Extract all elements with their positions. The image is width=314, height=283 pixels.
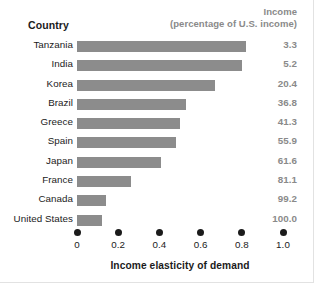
income-header-line1: Income [170, 6, 297, 18]
chart-row: Tanzania3.3 [0, 38, 314, 57]
country-label: Canada [0, 193, 73, 204]
income-value: 3.3 [245, 39, 297, 50]
x-axis-tick: 0.4 [139, 229, 179, 250]
tick-label: 0.2 [98, 239, 138, 250]
chart-row: Canada99.2 [0, 192, 314, 211]
x-axis-tick: 0.2 [98, 229, 138, 250]
elasticity-bar [77, 137, 176, 148]
tick-dot-icon [280, 229, 287, 236]
income-value: 5.2 [245, 58, 297, 69]
elasticity-bar [77, 41, 246, 52]
tick-label: 0.8 [222, 239, 262, 250]
income-elasticity-chart: Country Income (percentage of U.S. incom… [0, 0, 314, 283]
elasticity-bar [77, 176, 131, 187]
income-value: 81.1 [245, 174, 297, 185]
income-header-line2: (percentage of U.S. income) [170, 18, 297, 30]
elasticity-bar [77, 80, 215, 91]
elasticity-bar [77, 99, 186, 110]
tick-label: 1.0 [263, 239, 303, 250]
country-label: France [0, 174, 73, 185]
tick-label: 0 [57, 239, 97, 250]
chart-row: Brazil36.8 [0, 96, 314, 115]
elasticity-bar [77, 118, 180, 129]
chart-row: Japan61.6 [0, 154, 314, 173]
elasticity-bar [77, 60, 242, 71]
income-column-header: Income (percentage of U.S. income) [170, 6, 297, 30]
income-value: 61.6 [245, 155, 297, 166]
income-value: 99.2 [245, 193, 297, 204]
elasticity-bar [77, 157, 161, 168]
country-label: India [0, 58, 73, 69]
tick-label: 0.6 [181, 239, 221, 250]
income-value: 55.9 [245, 135, 297, 146]
country-label: Spain [0, 135, 73, 146]
income-value: 36.8 [245, 97, 297, 108]
chart-header: Country Income (percentage of U.S. incom… [0, 0, 314, 36]
income-value: 20.4 [245, 78, 297, 89]
chart-row: Korea20.4 [0, 77, 314, 96]
country-label: Korea [0, 78, 73, 89]
elasticity-bar [77, 195, 106, 206]
country-label: Tanzania [0, 39, 73, 50]
x-axis-title: Income elasticity of demand [77, 260, 283, 271]
chart-rows: Tanzania3.3India5.2Korea20.4Brazil36.8Gr… [0, 38, 314, 231]
x-axis-tick: 0.8 [222, 229, 262, 250]
x-axis-tick: 0.6 [181, 229, 221, 250]
tick-dot-icon [156, 229, 163, 236]
chart-row: India5.2 [0, 57, 314, 76]
country-label: Greece [0, 116, 73, 127]
country-label: Brazil [0, 97, 73, 108]
tick-dot-icon [238, 229, 245, 236]
tick-dot-icon [74, 229, 81, 236]
country-label: Japan [0, 155, 73, 166]
chart-row: Greece41.3 [0, 115, 314, 134]
country-column-header: Country [28, 19, 69, 31]
elasticity-bar [77, 215, 102, 226]
tick-dot-icon [197, 229, 204, 236]
x-axis-tick: 1.0 [263, 229, 303, 250]
income-value: 100.0 [245, 213, 297, 224]
chart-row: France81.1 [0, 173, 314, 192]
chart-row: Spain55.9 [0, 134, 314, 153]
income-value: 41.3 [245, 116, 297, 127]
x-axis: 00.20.40.60.81.0 [0, 229, 314, 259]
x-axis-tick: 0 [57, 229, 97, 250]
country-label: United States [0, 213, 73, 224]
tick-dot-icon [115, 229, 122, 236]
tick-label: 0.4 [139, 239, 179, 250]
